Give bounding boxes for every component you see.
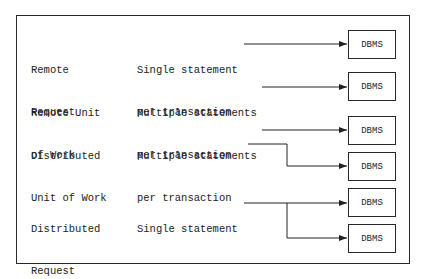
dbms-box: DBMS bbox=[348, 224, 396, 253]
dbms-box: DBMS bbox=[348, 116, 396, 145]
dbms-label: DBMS bbox=[361, 162, 383, 172]
dbms-box: DBMS bbox=[348, 72, 396, 101]
dbms-box: DBMS bbox=[348, 188, 396, 217]
dbms-label: DBMS bbox=[361, 126, 383, 136]
dbms-box: DBMS bbox=[348, 30, 396, 59]
dbms-box: DBMS bbox=[348, 152, 396, 181]
dbms-label: DBMS bbox=[361, 40, 383, 50]
dbms-label: DBMS bbox=[361, 82, 383, 92]
dbms-label: DBMS bbox=[361, 234, 383, 244]
dbms-label: DBMS bbox=[361, 198, 383, 208]
